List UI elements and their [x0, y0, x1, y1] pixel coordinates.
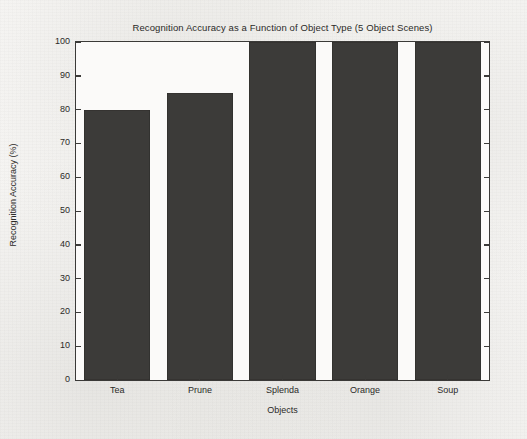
- x-axis-tick-label: Splenda: [266, 385, 299, 395]
- y-axis-tick-label: 100: [55, 36, 70, 46]
- y-axis-tick-label: 80: [60, 104, 70, 114]
- bar-series: [76, 42, 489, 380]
- y-axis-title: Recognition Accuracy (%): [8, 120, 18, 270]
- y-axis-tick-label: 40: [60, 239, 70, 249]
- bar-slot: [159, 42, 242, 380]
- y-axis-tick-label: 60: [60, 171, 70, 181]
- bar-slot: [406, 42, 489, 380]
- x-axis-tick-label: Soup: [437, 385, 458, 395]
- x-axis-tick-mark: [365, 375, 366, 380]
- bar-slot: [76, 42, 159, 380]
- chart-title: Recognition Accuracy as a Function of Ob…: [75, 22, 490, 33]
- y-axis-tick-label: 10: [60, 340, 70, 350]
- bar-orange: [332, 42, 398, 380]
- y-axis-tick-label: 90: [60, 70, 70, 80]
- bar-tea: [84, 110, 150, 380]
- y-axis-tick-label: 20: [60, 306, 70, 316]
- bar-soup: [415, 42, 481, 380]
- plot-area: 0102030405060708090100 TeaPruneSplendaOr…: [75, 41, 490, 381]
- bar-slot: [241, 42, 324, 380]
- x-axis-tick-mark: [199, 375, 200, 380]
- y-axis-tick-label: 0: [65, 374, 70, 384]
- y-axis-tick-label: 70: [60, 137, 70, 147]
- y-axis-tick-label: 50: [60, 205, 70, 215]
- bar-chart-figure: Recognition Accuracy as a Function of Ob…: [0, 0, 527, 439]
- x-axis-tick-label: Prune: [188, 385, 212, 395]
- x-axis-tick-mark: [117, 375, 118, 380]
- x-axis-tick-mark: [447, 375, 448, 380]
- x-axis-tick-label: Tea: [110, 385, 125, 395]
- x-axis-tick-mark: [282, 375, 283, 380]
- bar-prune: [167, 93, 233, 380]
- x-axis-title: Objects: [75, 405, 490, 415]
- x-axis-tick-label: Orange: [350, 385, 380, 395]
- bar-splenda: [249, 42, 315, 380]
- y-axis-tick-label: 30: [60, 273, 70, 283]
- bar-slot: [324, 42, 407, 380]
